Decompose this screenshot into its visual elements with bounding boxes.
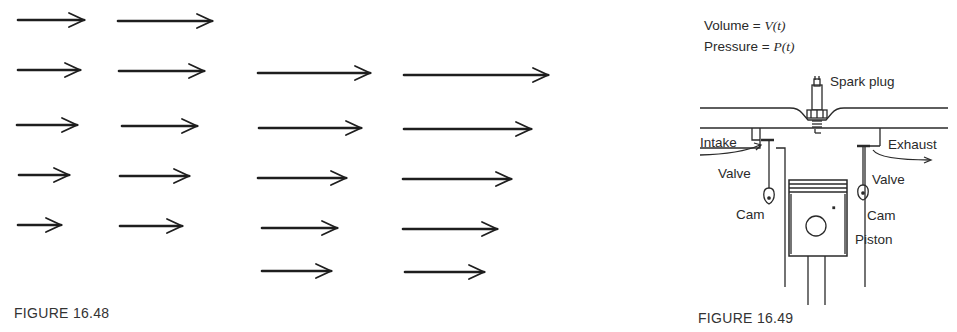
vector-arrow	[19, 168, 69, 182]
exhaust-label: Exhaust	[888, 137, 937, 152]
intake-cam-icon	[764, 188, 775, 204]
vector-arrow	[118, 14, 212, 28]
piston-label: Piston	[855, 232, 893, 247]
valve-right-label: Valve	[872, 172, 905, 187]
vector-arrow	[18, 63, 80, 77]
spark-plug-label: Spark plug	[830, 74, 895, 89]
cam-right-label: Cam	[867, 208, 896, 223]
exhaust-port	[868, 128, 880, 146]
vector-arrow	[17, 118, 77, 132]
cam-left-label: Cam	[736, 207, 765, 222]
vector-arrow	[405, 265, 484, 279]
intake-label: Intake	[700, 135, 737, 150]
valve-left-label: Valve	[718, 166, 751, 181]
vector-arrow	[119, 64, 204, 78]
spark-plug-icon	[807, 76, 827, 133]
vector-arrow	[258, 66, 370, 80]
vector-arrow	[404, 122, 531, 136]
cylinder-wall-left	[776, 148, 785, 287]
volume-label: Volume = V(t)	[704, 18, 785, 34]
figure-16-49: Volume = V(t) Pressure = P(t) Spark plug…	[690, 0, 957, 332]
piston-icon	[789, 180, 847, 256]
figure-caption-16-49: FIGURE 16.49	[698, 310, 793, 326]
vector-arrow	[403, 172, 511, 186]
vector-arrow	[120, 169, 189, 183]
vector-arrow	[120, 219, 182, 233]
vector-arrow	[18, 13, 84, 27]
vector-arrow	[259, 121, 361, 135]
figure-caption-16-48: FIGURE 16.48	[14, 305, 109, 321]
vector-arrow	[404, 68, 548, 82]
vector-field-arrows	[0, 0, 600, 332]
vector-arrow	[258, 171, 346, 185]
vector-arrow	[122, 119, 197, 133]
vector-arrow	[262, 264, 331, 278]
vector-arrow	[262, 221, 337, 235]
vector-arrow	[403, 222, 497, 236]
vector-arrow	[18, 218, 61, 232]
pressure-label: Pressure = P(t)	[704, 39, 794, 55]
figure-16-48: FIGURE 16.48	[0, 0, 600, 332]
